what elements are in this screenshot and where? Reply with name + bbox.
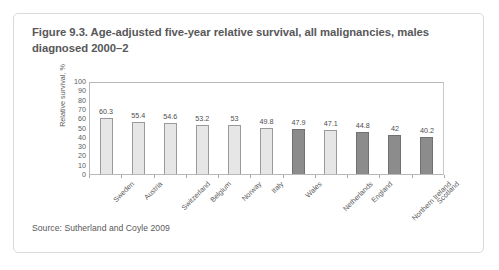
y-axis-tick-label: 10 [62, 162, 86, 169]
y-axis-tick-label: 20 [62, 153, 86, 160]
bar[interactable] [292, 129, 305, 174]
x-axis-label: Northern Ireland [411, 178, 454, 221]
y-axis-tick-label: 30 [62, 143, 86, 150]
bar[interactable] [260, 128, 273, 174]
bar[interactable] [132, 122, 145, 174]
bar-slot: 40.2 [411, 83, 443, 174]
bar-value-label: 40.2 [420, 127, 434, 135]
figure-title: Figure 9.3. Age-adjusted five-year relat… [32, 25, 452, 56]
plot-area: 60.355.454.653.25349.847.947.144.84240.2 [89, 82, 444, 175]
bar-value-label: 53 [230, 115, 238, 123]
bar-value-label: 53.2 [195, 115, 209, 123]
bar-slot: 60.3 [90, 83, 122, 174]
bar[interactable] [228, 125, 241, 174]
x-axis-label: Norway [241, 178, 265, 202]
bar[interactable] [196, 125, 209, 174]
y-axis-tick-labels: 1009080706050403020100 [62, 82, 86, 175]
y-axis-tick-label: 50 [62, 125, 86, 132]
x-axis-label: Belgium [210, 178, 235, 203]
bar[interactable] [356, 132, 369, 174]
bar-slot: 47.9 [283, 83, 315, 174]
bar[interactable] [100, 118, 113, 174]
bar[interactable] [420, 137, 433, 174]
chart-region: Relative survival, % 1009080706050403020… [32, 69, 464, 219]
x-axis-label: England [371, 178, 396, 203]
bar-value-label: 47.9 [292, 119, 306, 127]
bar-slot: 53 [218, 83, 250, 174]
y-axis-tick-label: 70 [62, 106, 86, 113]
x-axis-tick [444, 175, 445, 178]
bar[interactable] [324, 130, 337, 174]
bar-slot: 55.4 [122, 83, 154, 174]
figure-card: Figure 9.3. Age-adjusted five-year relat… [13, 13, 484, 253]
bar-slot: 44.8 [347, 83, 379, 174]
bar-value-label: 54.6 [163, 113, 177, 121]
x-axis-label: Switzerland [181, 178, 214, 211]
y-axis-tick-label: 100 [62, 78, 86, 85]
y-axis-tick-label: 80 [62, 97, 86, 104]
bar-value-label: 42 [391, 125, 399, 133]
bar-series: 60.355.454.653.25349.847.947.144.84240.2 [90, 83, 443, 174]
y-axis-tick-label: 90 [62, 88, 86, 95]
y-axis-tick-label: 0 [62, 171, 86, 178]
y-axis-tick-label: 60 [62, 116, 86, 123]
bar-slot: 53.2 [186, 83, 218, 174]
source-note: Source: Sutherland and Coyle 2009 [32, 223, 170, 233]
bar-slot: 54.6 [154, 83, 186, 174]
x-axis-label: Sweden [113, 178, 138, 203]
x-axis-label: Wales [305, 178, 325, 198]
bar-value-label: 60.3 [99, 108, 113, 116]
x-axis-label: Austria [144, 178, 166, 200]
bar-value-label: 47.1 [324, 120, 338, 128]
bar-slot: 42 [379, 83, 411, 174]
bar-value-label: 44.8 [356, 122, 370, 130]
bar-slot: 49.8 [250, 83, 282, 174]
y-axis-tick-label: 40 [62, 134, 86, 141]
bar[interactable] [164, 123, 177, 174]
bar-slot: 47.1 [315, 83, 347, 174]
bar-value-label: 55.4 [131, 112, 145, 120]
bar[interactable] [388, 135, 401, 174]
bar-value-label: 49.8 [260, 118, 274, 126]
x-axis-label: Italy [270, 178, 286, 194]
